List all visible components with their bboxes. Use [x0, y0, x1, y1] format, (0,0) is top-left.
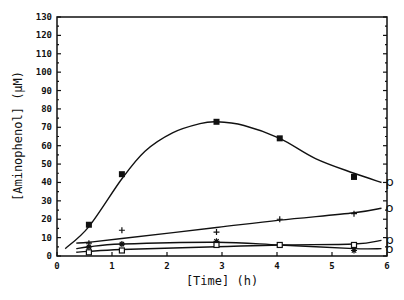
line-chart: 0102030405060708090100110120130 0123456 … [0, 0, 404, 300]
plot-frame [57, 17, 387, 256]
filled-square-marker [86, 222, 92, 228]
series-end-label: p [386, 174, 394, 189]
plus-marker [119, 227, 125, 233]
x-tick-label: 5 [329, 261, 334, 271]
series-plus: o [76, 200, 393, 246]
star-marker [119, 241, 125, 247]
series-line [76, 208, 381, 243]
filled-square-marker [119, 171, 125, 177]
x-tick-label: 4 [274, 261, 280, 271]
plus-marker [351, 211, 357, 217]
filled-square-marker [351, 174, 357, 180]
filled-square-marker [214, 119, 220, 125]
series-end-label: o [386, 200, 394, 215]
x-axis-ticks: 0123456 [54, 252, 389, 271]
series-filled-square: p [65, 119, 394, 249]
series-line [65, 122, 381, 249]
open-square-marker [119, 248, 124, 253]
plus-marker [214, 229, 220, 235]
y-tick-label: 10 [41, 233, 52, 243]
x-tick-label: 2 [164, 261, 169, 271]
y-tick-label: 30 [41, 196, 52, 206]
y-tick-label: 40 [41, 177, 52, 187]
y-tick-label: 90 [41, 86, 52, 96]
filled-square-marker [277, 135, 283, 141]
y-tick-label: 60 [41, 141, 52, 151]
x-axis-title: [Time] (h) [186, 274, 258, 288]
y-tick-label: 70 [41, 122, 52, 132]
y-tick-label: 50 [41, 159, 52, 169]
open-square-marker [352, 242, 357, 247]
y-tick-label: 130 [36, 12, 52, 22]
open-square-marker [277, 242, 282, 247]
star-marker [86, 244, 92, 250]
y-tick-label: 120 [36, 30, 52, 40]
y-tick-label: 100 [36, 67, 52, 77]
x-tick-label: 6 [384, 261, 389, 271]
x-tick-label: 0 [54, 261, 59, 271]
y-tick-label: 80 [41, 104, 52, 114]
series-end-label: p [386, 232, 394, 247]
plus-marker [277, 216, 283, 222]
y-axis-title: [Aminophenol] (μM) [11, 71, 25, 201]
x-tick-label: 3 [219, 261, 224, 271]
series-layer: poop [65, 119, 394, 256]
x-tick-label: 1 [109, 261, 114, 271]
open-square-marker [214, 242, 219, 247]
y-tick-label: 0 [47, 251, 52, 261]
star-marker [351, 247, 357, 253]
y-tick-label: 110 [36, 49, 52, 59]
y-tick-label: 20 [41, 214, 52, 224]
open-square-marker [86, 250, 91, 255]
